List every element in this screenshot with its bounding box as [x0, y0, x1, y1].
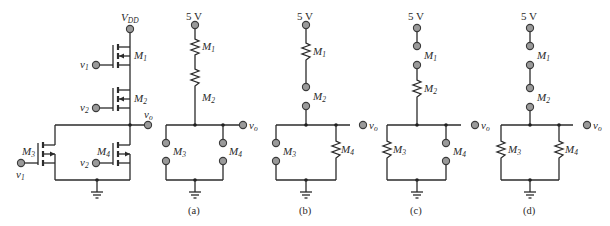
v1-label: v1 — [80, 58, 89, 72]
svg-text:M4: M4 — [340, 143, 354, 157]
svg-text:M3: M3 — [172, 145, 186, 159]
svg-text:M4: M4 — [228, 145, 242, 159]
transistor-m1: v1 M1 — [80, 44, 147, 72]
svg-text:M2: M2 — [312, 90, 326, 104]
caption-b: (b) — [299, 205, 312, 217]
svg-text:M2: M2 — [536, 91, 550, 105]
vdd-label: VDD — [121, 11, 139, 25]
switch-m4-open-c — [442, 139, 449, 146]
ground-icon — [91, 180, 103, 198]
ground-icon — [411, 180, 423, 198]
circuit-figure: VDD v1 M1 — [0, 0, 610, 226]
m4-label: M4 — [96, 145, 110, 159]
svg-text:M2: M2 — [423, 82, 437, 96]
svg-text:M2: M2 — [201, 91, 215, 105]
svg-text:M4: M4 — [564, 143, 578, 157]
resistor-m3-c — [383, 125, 391, 180]
m4-v2-input-terminal — [92, 159, 99, 166]
switch-m2-open-b — [302, 102, 309, 109]
vo-output-terminal — [144, 121, 151, 128]
svg-text:M1: M1 — [536, 49, 550, 63]
variant-b: 5 V M1 M2 vo M3 M4 (b) — [272, 10, 377, 217]
variant-c: 5 V M1 M2 vo M3 M4 (c) — [383, 10, 490, 217]
svg-text:M1: M1 — [423, 49, 437, 63]
m2-label: M2 — [133, 92, 147, 106]
v1-input-terminal — [92, 61, 99, 68]
svg-text:vo: vo — [249, 119, 258, 133]
svg-text:M1: M1 — [201, 40, 215, 54]
switch-m1-open-c — [413, 42, 420, 49]
caption-d: (d) — [523, 205, 536, 217]
ground-icon — [300, 180, 312, 198]
m1-label: M1 — [133, 49, 147, 63]
m3-v1-input-terminal — [17, 159, 24, 166]
variant-d: 5 V M1 M2 vo M3 M4 (d) — [497, 10, 602, 217]
svg-text:M1: M1 — [312, 45, 326, 59]
resistor-m1-b — [302, 40, 310, 83]
v2-label: v2 — [80, 101, 89, 115]
switch-m3-open-a — [162, 139, 169, 146]
svg-text:M4: M4 — [452, 145, 466, 159]
svg-text:vo: vo — [369, 119, 378, 133]
main-cmos-circuit: VDD v1 M1 — [16, 11, 153, 198]
ground-icon — [189, 180, 201, 198]
m3-label: M3 — [21, 145, 35, 159]
svg-text:M3: M3 — [282, 145, 296, 159]
caption-a: (a) — [188, 205, 200, 217]
svg-text:vo: vo — [481, 119, 490, 133]
variant-a: 5 V M1 M2 vo M3 M4 — [162, 10, 257, 217]
caption-c: (c) — [410, 205, 422, 217]
switch-m1-open-d — [526, 42, 533, 49]
vo-label: vo — [144, 108, 153, 122]
svg-text:vo: vo — [593, 119, 602, 133]
switch-m3-open-b — [272, 139, 279, 146]
transistor-m3: v1 M3 — [16, 125, 55, 182]
supply-label-a: 5 V — [186, 10, 202, 22]
v2-input-terminal — [92, 104, 99, 111]
resistor-m4-b — [332, 125, 340, 180]
supply-label-c: 5 V — [408, 10, 424, 22]
supply-label-d: 5 V — [521, 10, 537, 22]
svg-text:M3: M3 — [392, 143, 406, 157]
switch-m4-open-a — [219, 139, 226, 146]
transistor-m4: v2 M4 — [80, 125, 130, 180]
supply-label-b: 5 V — [297, 10, 313, 22]
svg-text:M3: M3 — [507, 143, 521, 157]
switch-m2-open-d — [526, 84, 533, 91]
m3-v1-label: v1 — [16, 168, 25, 182]
resistor-m2-c — [413, 69, 421, 125]
vdd-terminal — [126, 25, 133, 32]
ground-icon — [524, 180, 536, 198]
resistor-m4-d — [555, 125, 563, 180]
m4-v2-label: v2 — [80, 156, 89, 170]
resistor-m3-d — [497, 125, 505, 180]
resistor-m2-a — [191, 66, 199, 125]
resistor-m1-a — [191, 36, 199, 66]
transistor-m2: v2 M2 — [80, 87, 147, 115]
